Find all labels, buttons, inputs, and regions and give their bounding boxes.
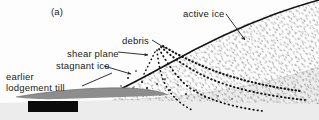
- label-debris: debris: [122, 35, 149, 46]
- debris-leader: [152, 40, 165, 48]
- label-earlier-lodgement-till: earlier lodgement till: [6, 71, 65, 93]
- panel-letter: (a): [51, 6, 63, 17]
- label-active-ice: active ice: [183, 8, 225, 19]
- label-stagnant-ice: stagnant ice: [56, 60, 110, 71]
- shear-plane-leader: [118, 52, 148, 55]
- scale-bar: [28, 101, 78, 112]
- glacial-cross-section-figure: (a) active ice debris shear plane stagna…: [0, 0, 319, 120]
- earlier-till-leader: [82, 73, 112, 86]
- label-shear-plane: shear plane: [67, 48, 119, 59]
